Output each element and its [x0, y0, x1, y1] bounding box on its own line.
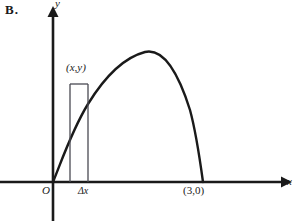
x-axis-label: x [287, 176, 292, 187]
point-xy-label: (x,y) [66, 62, 86, 73]
y-axis-label: y [55, 0, 60, 9]
root-point-label: (3,0) [183, 185, 204, 196]
delta-x-label: Δx [78, 186, 88, 196]
panel-letter: B. [5, 3, 19, 16]
origin-label: O [42, 185, 50, 196]
figure-panel-b: B. y x O (x,y) Δx (3,0) [0, 0, 296, 221]
